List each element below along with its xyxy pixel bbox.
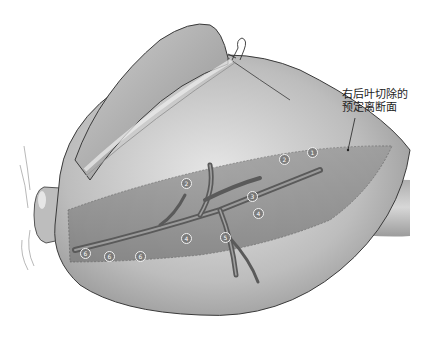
step-marker: 4 [253,208,264,219]
label-line-1: 右后叶切除的 [342,88,408,101]
step-marker: 6 [135,251,146,262]
step-marker: 6 [80,248,91,259]
step-marker: 6 [104,251,115,262]
liver-illustration [0,0,424,341]
step-marker: 2 [181,178,192,189]
label-line-2: 预定离断面 [342,101,408,114]
step-marker: 3 [247,191,258,202]
step-marker: 2 [279,154,290,165]
left-stump [20,146,60,270]
step-marker: 4 [181,233,192,244]
step-marker: 1 [307,147,318,158]
step-marker: 5 [220,232,231,243]
resection-plane-label: 右后叶切除的 预定离断面 [342,88,408,114]
